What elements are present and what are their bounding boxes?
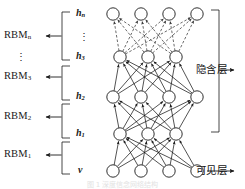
rbm-ellipsis: ⋮ <box>16 52 26 62</box>
layer-label-h2: h2 <box>76 91 85 102</box>
node-v-2 <box>135 165 147 177</box>
rbm-label-1-base: RBM <box>4 148 28 159</box>
visible-layer-label: 可见层 <box>196 165 227 176</box>
node-h_n-4 <box>191 8 203 20</box>
edges-solid <box>114 60 194 168</box>
edge-h_2-h_3 <box>142 64 147 91</box>
dbn-figure: RBMn ⋮ RBM3 RBM2 RBM1 hn ⋮ h3 h2 h1 v 隐含… <box>0 0 245 189</box>
rbm-pointer-arrows <box>46 36 62 155</box>
rbm-label-3-base: RBM <box>4 70 28 81</box>
node-h_3-1 <box>114 51 126 63</box>
network-diagram-svg <box>0 0 245 189</box>
rbm-label-1-sub: 1 <box>28 152 32 160</box>
side-pointer-arrows <box>207 70 234 171</box>
figure-caption: 图 1 深度信念网络结构 <box>0 179 245 189</box>
edge-h_3-h_n <box>119 18 171 53</box>
layer-label-h1-sub: 1 <box>82 131 85 138</box>
hidden-layer-label: 隐含层 <box>196 64 227 75</box>
node-h_1-2 <box>142 128 154 140</box>
edge-h_2-h_3 <box>118 61 170 94</box>
node-h_n-2 <box>135 8 147 20</box>
layer-label-hn: hn <box>76 8 85 19</box>
node-h_1-3 <box>170 128 182 140</box>
edge-h_3-h_n <box>142 21 147 51</box>
rbm-label-n-base: RBM <box>4 29 28 40</box>
edge-h_1-h_2 <box>179 103 193 128</box>
node-h_3-3 <box>170 51 182 63</box>
rbm-label-3: RBM3 <box>4 71 31 82</box>
edge-h_1-h_2 <box>151 103 165 128</box>
rbm-label-2: RBM2 <box>4 111 31 122</box>
edge-h_2-h_3 <box>114 64 119 91</box>
edge-v-h_1 <box>124 140 138 165</box>
node-h_3-2 <box>142 51 154 63</box>
edge-h_3-h_n <box>114 21 119 51</box>
edge-h_3-h_n <box>118 20 144 52</box>
node-h_2-1 <box>107 91 119 103</box>
node-h_2-2 <box>135 91 147 103</box>
edge-h_2-h_3 <box>123 64 138 92</box>
layer-label-h3-sub: 3 <box>82 54 85 61</box>
edge-v-h_1 <box>118 138 169 168</box>
edge-h_1-h_2 <box>119 101 170 131</box>
edge-h_3-h_n <box>146 20 172 52</box>
edge-v-h_1 <box>180 140 194 165</box>
edge-v-h_1 <box>114 141 118 165</box>
layer-label-h2-sub: 2 <box>82 94 85 101</box>
edge-v-h_1 <box>170 141 174 165</box>
rbm-group-brackets <box>62 12 70 174</box>
edge-h_2-h_3 <box>170 64 175 91</box>
layer-label-v: v <box>78 165 82 176</box>
node-v-3 <box>163 165 175 177</box>
rbm-label-2-base: RBM <box>4 110 28 121</box>
rbm-label-1: RBM1 <box>4 149 31 160</box>
edge-h_3-h_n <box>123 21 138 52</box>
rbm-label-n-sub: n <box>28 33 32 41</box>
edge-h_3-h_n <box>170 21 175 51</box>
node-h_2-4 <box>191 91 203 103</box>
edges-hn-h3-dashed <box>114 18 194 54</box>
node-h_2-3 <box>163 91 175 103</box>
edge-h_1-h_2 <box>114 104 118 128</box>
node-v-1 <box>107 165 119 177</box>
rbm-label-n: RBMn <box>4 30 31 41</box>
edge-h_3-h_n <box>179 21 194 52</box>
node-h_1-1 <box>114 128 126 140</box>
node-h_n-1 <box>107 8 119 20</box>
layer-label-v-base: v <box>78 164 82 175</box>
layer-label-h3: h3 <box>76 51 85 62</box>
layer-ellipsis: ⋮ <box>79 32 89 42</box>
layer-label-hn-sub: n <box>82 11 86 18</box>
rbm-label-2-sub: 2 <box>28 114 32 122</box>
layer-label-h1: h1 <box>76 128 85 139</box>
node-h_n-3 <box>163 8 175 20</box>
edge-h_2-h_3 <box>179 64 194 92</box>
rbm-label-3-sub: 3 <box>28 74 32 82</box>
